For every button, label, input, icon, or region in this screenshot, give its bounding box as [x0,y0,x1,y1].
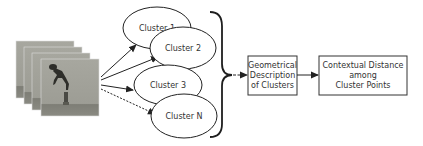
step2-line1: Contextual Distance [322,61,403,70]
cluster-2: Cluster 2 [150,27,216,69]
step1-line1: Geometrical [248,61,297,70]
cluster-n-label: Cluster N [166,112,203,121]
step2-line3: Cluster Points [336,81,391,90]
contextual-distance-box: Contextual Distance among Cluster Points [319,56,407,95]
cluster-3-label: Cluster 3 [150,81,186,90]
geometrical-description-box: Geometrical Description of Clusters [248,56,297,95]
diagram-canvas: Cluster 1 Cluster 2 Cluster 3 Cluster N … [0,0,423,146]
cluster-2-label: Cluster 2 [165,44,201,53]
step1-line3: of Clusters [251,81,294,90]
edge-cluster-1 [101,45,136,77]
edge-cluster-3 [101,85,133,90]
step1-line2: Description [250,71,296,80]
video-frames-stack [16,41,99,116]
cluster-n: Cluster N [151,94,217,138]
step2-line2: among [349,71,377,80]
